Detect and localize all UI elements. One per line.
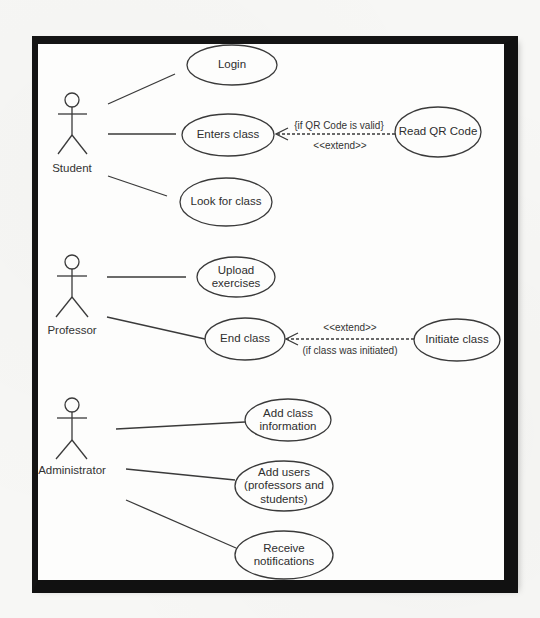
actor-professor-icon xyxy=(56,255,88,317)
use-case-diagram xyxy=(0,0,540,618)
actor-administrator-icon xyxy=(56,398,87,459)
usecase-look-for-class: Look for class xyxy=(180,178,272,226)
assoc-admin-add-users xyxy=(126,469,235,480)
assoc-student-look-for-class xyxy=(108,176,167,196)
usecase-enters-class: Enters class xyxy=(182,114,274,156)
assoc-admin-receive-notif xyxy=(126,500,236,548)
usecase-receive-notifications: Receive notifications xyxy=(235,531,333,579)
actor-student-icon xyxy=(58,93,87,154)
extend-stereotype-qr: <<extend>> xyxy=(300,139,380,153)
actor-label-professor: Professor xyxy=(37,323,107,337)
assoc-admin-add-class-info xyxy=(116,422,245,429)
assoc-professor-end-class xyxy=(107,317,205,339)
actor-label-administrator: Administrator xyxy=(30,463,114,477)
extend-condition-initiate: (if class was initiated) xyxy=(290,344,410,358)
usecase-add-users: Add users (professors and students) xyxy=(235,461,333,511)
usecase-login: Login xyxy=(187,45,277,85)
usecase-initiate-class: Initiate class xyxy=(414,319,500,361)
usecase-upload-exercises: Upload exercises xyxy=(197,257,275,297)
usecase-add-class-information: Add class information xyxy=(245,399,331,441)
actor-label-student: Student xyxy=(42,161,102,175)
extend-stereotype-initiate: <<extend>> xyxy=(310,321,390,335)
extend-condition-qr: {if QR Code is valid} xyxy=(284,119,394,133)
assoc-student-login xyxy=(108,74,175,104)
usecase-read-qr-code: Read QR Code xyxy=(395,107,481,157)
usecase-end-class: End class xyxy=(205,318,285,360)
